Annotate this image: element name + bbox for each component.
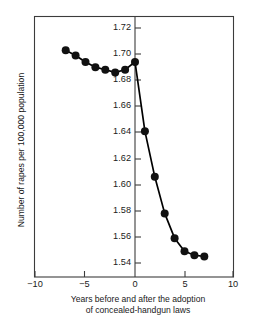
y-tick-label: 1.64 — [113, 126, 131, 136]
data-point — [82, 58, 90, 66]
data-point — [91, 63, 99, 71]
data-point — [141, 127, 149, 135]
x-tick-label: 10 — [228, 279, 238, 289]
y-tick-label: 1.58 — [113, 205, 131, 215]
data-point — [72, 51, 80, 59]
x-tick-label: 5 — [182, 279, 187, 289]
data-point — [200, 252, 208, 260]
y-tick-label: 1.66 — [113, 100, 131, 110]
data-point — [121, 66, 129, 74]
data-point — [161, 209, 169, 217]
data-point — [131, 58, 139, 66]
y-axis-title: Number of rapes per 100,000 population — [16, 73, 26, 228]
x-axis-title-line1: Years before and after the adoption — [71, 294, 206, 304]
y-tick-label: 1.54 — [113, 257, 131, 267]
data-point — [181, 247, 189, 255]
chart-figure: 1.72 1.70 1.68 1.66 1.64 1.62 1.60 1.58 … — [0, 0, 263, 335]
y-tick-label: 1.60 — [113, 179, 131, 189]
data-point — [111, 68, 119, 76]
y-tick-label: 1.56 — [113, 231, 131, 241]
data-point — [151, 173, 159, 181]
data-point — [101, 66, 109, 74]
x-tick-label: −5 — [79, 279, 89, 289]
data-point — [190, 251, 198, 259]
data-point — [171, 234, 179, 242]
rapes-concealed-handgun-line-chart: 1.72 1.70 1.68 1.66 1.64 1.62 1.60 1.58 … — [0, 0, 263, 335]
x-tick-label: 0 — [132, 279, 137, 289]
x-axis-title-line2: of concealed-handgun laws — [86, 305, 191, 315]
x-tick-label: −10 — [27, 279, 43, 289]
y-tick-label: 1.70 — [113, 48, 131, 58]
y-tick-label: 1.62 — [113, 153, 131, 163]
y-tick-label: 1.72 — [113, 22, 131, 32]
data-point — [62, 46, 70, 54]
